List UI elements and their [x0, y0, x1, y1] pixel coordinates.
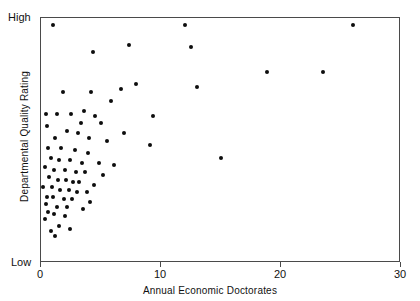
data-point	[50, 185, 54, 189]
x-axis-tick-label: 30	[385, 268, 415, 280]
y-axis-title: Departmental Quality Rating	[19, 47, 30, 227]
data-point	[77, 180, 81, 184]
data-point	[52, 212, 56, 216]
data-point	[59, 146, 63, 150]
data-point	[58, 188, 62, 192]
data-point	[88, 200, 92, 204]
data-point	[57, 224, 61, 228]
data-point	[67, 188, 71, 192]
data-point	[76, 131, 80, 135]
data-point	[64, 178, 68, 182]
data-point	[134, 82, 138, 86]
data-point	[91, 50, 95, 54]
data-point	[119, 87, 123, 91]
data-point	[61, 90, 65, 94]
data-point	[55, 112, 59, 116]
y-axis-low-label: Low	[11, 256, 31, 268]
x-axis-title: Annual Economic Doctorates	[0, 285, 420, 296]
x-axis-tick	[280, 262, 281, 267]
data-point	[56, 178, 60, 182]
data-point	[85, 190, 89, 194]
data-point	[151, 114, 155, 118]
data-point	[49, 156, 53, 160]
data-point	[81, 207, 85, 211]
data-point	[68, 158, 72, 162]
data-point	[70, 197, 74, 201]
x-axis-tick-label: 0	[25, 268, 55, 280]
data-point	[92, 183, 96, 187]
data-point	[82, 109, 86, 113]
data-point	[65, 205, 69, 209]
x-axis-tick	[400, 262, 401, 267]
x-axis-tick-label: 20	[265, 268, 295, 280]
data-point	[105, 139, 109, 143]
data-point	[45, 195, 49, 199]
data-point	[46, 146, 50, 150]
data-point	[195, 85, 199, 89]
data-point	[62, 197, 66, 201]
data-point	[55, 205, 59, 209]
data-point	[83, 170, 87, 174]
data-point	[43, 165, 47, 169]
data-point	[47, 175, 51, 179]
data-point	[57, 158, 61, 162]
data-point	[52, 168, 56, 172]
data-point	[73, 148, 77, 152]
data-point	[44, 112, 48, 116]
data-point	[68, 227, 72, 231]
data-point	[87, 136, 91, 140]
x-axis-tick-label: 10	[145, 268, 175, 280]
data-point	[65, 129, 69, 133]
data-point	[189, 45, 193, 49]
data-point	[112, 163, 116, 167]
data-point	[148, 143, 152, 147]
data-point	[183, 23, 187, 27]
data-point	[93, 114, 97, 118]
data-point	[45, 124, 49, 128]
data-point	[71, 180, 75, 184]
data-point	[97, 161, 101, 165]
plot-area	[40, 17, 400, 262]
y-axis-high-label: High	[8, 11, 31, 23]
data-point	[63, 214, 67, 218]
x-axis-tick	[160, 262, 161, 267]
data-point	[53, 136, 57, 140]
data-point	[265, 70, 269, 74]
data-point	[46, 210, 50, 214]
data-point	[51, 23, 55, 27]
data-point	[41, 185, 45, 189]
data-point	[79, 121, 83, 125]
data-point	[63, 168, 67, 172]
data-point	[44, 202, 48, 206]
data-point	[74, 170, 78, 174]
data-point	[51, 195, 55, 199]
data-point	[89, 90, 93, 94]
data-points-layer	[41, 18, 399, 261]
data-point	[351, 23, 355, 27]
data-point	[122, 131, 126, 135]
data-point	[219, 156, 223, 160]
data-point	[49, 229, 53, 233]
data-point	[53, 234, 57, 238]
data-point	[101, 173, 105, 177]
data-point	[69, 112, 73, 116]
scatter-plot-figure: High Low Departmental Quality Rating 010…	[0, 0, 420, 301]
data-point	[99, 121, 103, 125]
x-axis-tick	[40, 262, 41, 267]
data-point	[80, 161, 84, 165]
data-point	[43, 217, 47, 221]
data-point	[127, 43, 131, 47]
data-point	[109, 99, 113, 103]
data-point	[86, 151, 90, 155]
data-point	[75, 190, 79, 194]
data-point	[321, 70, 325, 74]
